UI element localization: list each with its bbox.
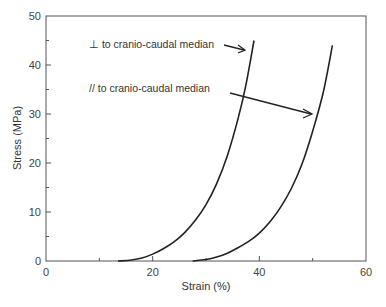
x-tick-label: 20: [147, 266, 159, 278]
y-tick-label: 0: [35, 255, 41, 267]
x-tick-label: 0: [43, 266, 49, 278]
y-axis-title: Stress (MPa): [11, 106, 23, 170]
y-tick-label: 30: [29, 108, 41, 120]
x-axis-title: Strain (%): [182, 280, 231, 292]
y-tick-label: 20: [29, 157, 41, 169]
curve-parallel: [193, 45, 333, 261]
y-axis-ticks: 01020304050: [29, 10, 51, 267]
y-tick-label: 50: [29, 10, 41, 22]
x-tick-label: 60: [360, 266, 372, 278]
x-tick-label: 40: [253, 266, 265, 278]
annotation-perpendicular: ⊥ to cranio-caudal median: [89, 38, 214, 50]
y-tick-label: 10: [29, 206, 41, 218]
stress-strain-chart: 0204060 01020304050 ⊥ to cranio-caudal m…: [0, 0, 386, 307]
y-tick-label: 40: [29, 59, 41, 71]
curve-perpendicular: [118, 41, 254, 262]
annotation-parallel: // to cranio-caudal median: [89, 82, 210, 94]
plot-frame: [46, 16, 366, 261]
